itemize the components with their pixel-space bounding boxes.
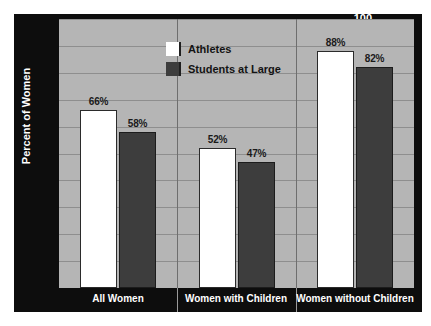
bar-value-label: 47% — [234, 148, 279, 159]
legend-label-athletes: Athletes — [188, 43, 231, 55]
chart-legend: Athletes Students at Large — [166, 41, 281, 81]
bar-value-label: 58% — [115, 118, 160, 129]
bar-athletes — [317, 51, 354, 288]
bar-students-at-large — [119, 132, 156, 288]
legend-item-students-at-large: Students at Large — [166, 61, 281, 77]
legend-item-athletes: Athletes — [166, 41, 281, 57]
legend-swatch-athletes-icon — [166, 42, 181, 56]
bar-students-at-large — [238, 162, 275, 288]
x-axis-band: All WomenWomen with ChildrenWomen withou… — [59, 288, 414, 312]
x-tick-label: All Women — [59, 293, 177, 304]
bar-athletes — [199, 148, 236, 288]
y-axis-title: Percent of Women — [20, 46, 32, 186]
legend-label-students-at-large: Students at Large — [188, 63, 281, 75]
plot-area: 66%58%52%47%88%82% Athletes Students at … — [59, 19, 414, 288]
gridline — [59, 19, 414, 20]
bar-value-label: 82% — [352, 53, 397, 64]
x-tick-label: Women with Children — [177, 293, 295, 304]
bar-athletes — [80, 110, 117, 288]
bar-chart-figure: Percent of Women 1009080706050403020100 … — [0, 0, 431, 326]
bar-value-label: 66% — [76, 96, 121, 107]
bar-value-label: 52% — [195, 134, 240, 145]
bar-value-label: 88% — [313, 37, 358, 48]
chart-panel: Percent of Women 1009080706050403020100 … — [14, 14, 422, 312]
legend-swatch-students-icon — [166, 62, 181, 76]
group-divider — [296, 19, 297, 288]
bar-students-at-large — [356, 67, 393, 288]
x-tick-label: Women without Children — [296, 293, 414, 304]
